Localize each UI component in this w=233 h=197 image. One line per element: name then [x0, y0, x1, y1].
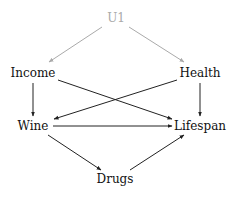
node-wine: Wine	[18, 119, 49, 133]
node-income: Income	[11, 66, 56, 80]
node-drugs: Drugs	[97, 172, 134, 186]
node-health: Health	[179, 66, 220, 80]
causal-diagram: U1IncomeHealthWineLifespanDrugs	[0, 0, 233, 197]
edge-health-to-wine-arrow-icon	[54, 80, 177, 119]
edge-u1-to-income-arrow-icon	[49, 27, 102, 62]
edges-layer	[33, 27, 200, 170]
edge-drugs-to-lifespan-arrow-icon	[130, 135, 184, 170]
edge-wine-to-drugs-arrow-icon	[48, 135, 101, 170]
node-lifespan: Lifespan	[174, 119, 226, 133]
nodes-layer: U1IncomeHealthWineLifespanDrugs	[11, 11, 227, 186]
edge-u1-to-health-arrow-icon	[129, 27, 184, 62]
node-u1: U1	[107, 11, 125, 25]
